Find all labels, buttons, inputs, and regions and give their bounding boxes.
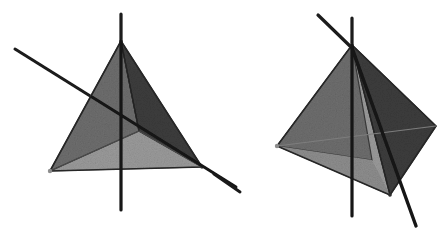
figure-canvas: Two shaded tetrahedra shown with rotatio… bbox=[0, 0, 446, 241]
right-tetra-vertex-front bbox=[388, 193, 392, 197]
left-tetra-vertex-left bbox=[48, 169, 52, 173]
tetrahedra-illustration bbox=[0, 0, 446, 241]
right-tetra-vertex-left bbox=[275, 144, 279, 148]
